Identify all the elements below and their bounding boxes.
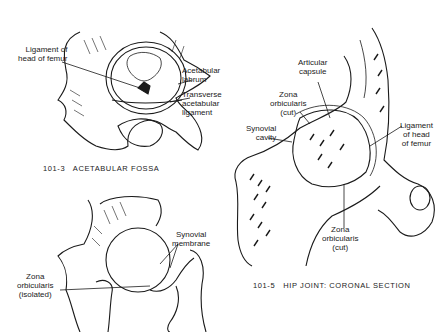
label-zona-orbicularis-cut-upper: Zona orbicularis (cut) bbox=[270, 90, 306, 117]
label-ligament-of-head-of-femur-fossa: Ligament of head of femur bbox=[18, 45, 67, 63]
caption-101-3: 101-3 ACETABULAR FOSSA bbox=[43, 164, 159, 173]
label-articular-capsule: Articular capsule bbox=[298, 58, 327, 76]
label-ligament-of-head-of-femur-section: Ligament of head of femur bbox=[400, 121, 433, 148]
label-zona-orbicularis-isolated: Zona orbicularis (isolated) bbox=[17, 272, 53, 299]
label-zona-orbicularis-cut-lower: Zona orbicularis (cut) bbox=[322, 225, 358, 252]
label-transverse-acetabular-ligament: Transverse acetabular ligament bbox=[182, 90, 222, 117]
zona-orbicularis-drawing bbox=[58, 197, 206, 332]
label-acetabular-labrum: Acetabular labrum bbox=[182, 66, 220, 84]
label-synovial-membrane: Synovial membrane bbox=[172, 230, 210, 248]
label-synovial-cavity: Synovial cavity bbox=[246, 124, 276, 142]
caption-101-5: 101-5 HIP JOINT: CORONAL SECTION bbox=[253, 281, 411, 290]
